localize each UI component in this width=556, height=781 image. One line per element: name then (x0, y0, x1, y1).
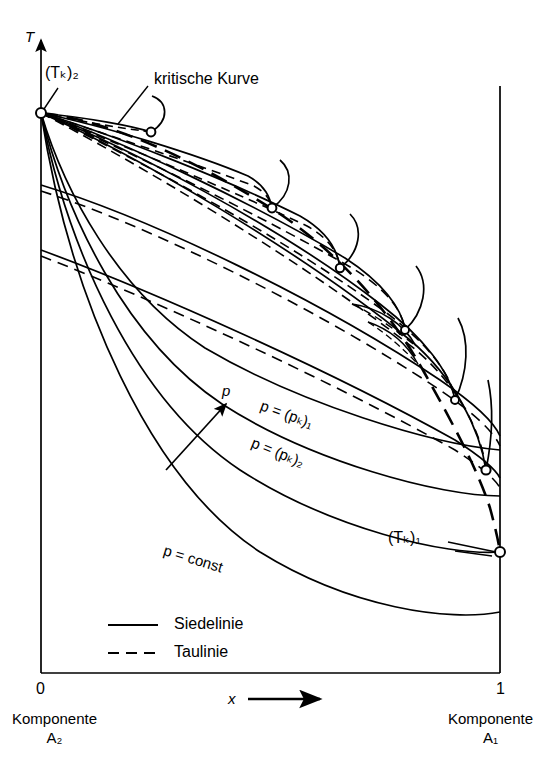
taulinie-C (41, 113, 486, 470)
leader-kritische-kurve (118, 86, 148, 124)
right-branch-C (486, 380, 492, 470)
marker-3 (336, 264, 344, 272)
left-component-label: Komponente A₂ (2, 710, 107, 748)
siedelinie-E (41, 113, 405, 330)
leader-lines (44, 86, 496, 556)
left-component-line1: Komponente (2, 710, 107, 729)
legend-label-siedelinie: Siedelinie (174, 615, 243, 633)
marker-5 (451, 396, 459, 404)
diagram-canvas (0, 0, 556, 781)
right-branch-D (455, 318, 466, 400)
legend-label-taulinie: Taulinie (174, 643, 228, 661)
critical-curve (41, 113, 500, 552)
inner-lens-2-lower (368, 322, 418, 364)
right-component-line1: Komponente (438, 710, 543, 729)
label-tk1: (Tₖ)₁ (388, 528, 421, 547)
x-tick-0: 0 (36, 680, 45, 698)
y-axis-label: T (25, 28, 34, 45)
p-direction-arrow (166, 404, 226, 470)
axis-group (41, 40, 500, 673)
marker-tk2 (36, 108, 46, 118)
taulinie-E (41, 113, 405, 330)
inner-lens-2-upper (368, 322, 418, 364)
right-branch-H (151, 96, 165, 132)
marker-6 (481, 465, 490, 474)
right-component-line2: A₁ (438, 729, 543, 748)
right-branch-E (405, 266, 424, 330)
taulinie-D (41, 113, 455, 400)
right-branch-F (340, 214, 358, 268)
p-arrow-line (166, 404, 226, 470)
label-kritische-kurve: kritische Kurve (154, 70, 259, 88)
marker-1 (147, 128, 156, 137)
x-tick-1: 1 (496, 680, 505, 698)
phase-diagram-figure: T (Tₖ)₂ kritische Kurve (Tₖ)₁ p p = (pₖ)… (0, 0, 556, 781)
siedelinie-D (41, 113, 455, 400)
marker-tk1 (495, 547, 505, 557)
left-component-line2: A₂ (2, 729, 107, 748)
x-axis-label: x (228, 690, 236, 707)
marker-4 (401, 326, 409, 334)
label-p-arrow: p (222, 382, 230, 399)
right-branch-G (272, 160, 289, 208)
leader-tk2 (44, 88, 58, 109)
label-tk2: (Tₖ)₂ (45, 63, 79, 82)
right-component-label: Komponente A₁ (438, 710, 543, 748)
critical-point-markers (36, 108, 505, 557)
kritische-kurve-path (41, 113, 500, 552)
siedelinie-C (41, 113, 486, 470)
legend-box (106, 606, 158, 673)
marker-2 (268, 204, 277, 213)
lens-D (41, 113, 466, 400)
